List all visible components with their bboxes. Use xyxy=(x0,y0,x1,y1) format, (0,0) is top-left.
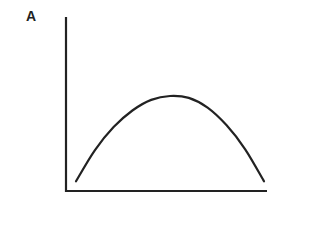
data-curve xyxy=(76,96,264,181)
chart-canvas xyxy=(0,0,319,231)
